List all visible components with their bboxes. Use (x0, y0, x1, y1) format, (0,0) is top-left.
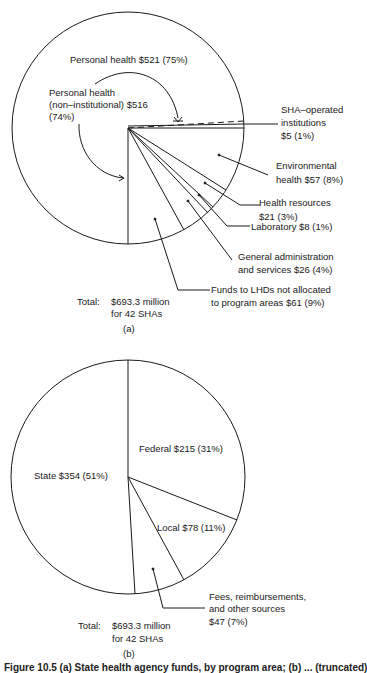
label-sha-1: SHA–operated (281, 104, 343, 116)
total-label-b: Total: (78, 620, 101, 632)
label-lhd-1: Funds to LHDs not allocated (211, 284, 331, 296)
label-hr-1: Health resources (259, 197, 331, 209)
label-sha-2: institutions (281, 117, 326, 129)
total-label-a: Total: (77, 296, 100, 308)
total-value-a: $693.3 million (111, 296, 170, 308)
label-env-2: health $57 (8%) (276, 174, 343, 186)
arrow-nonInst (79, 124, 123, 178)
label-lhd-2: to program areas $61 (9%) (211, 297, 325, 309)
pie-b-edge-federal (128, 477, 237, 520)
pie-b-edge-fees (128, 477, 135, 594)
figure-caption: Figure 10.5 (a) State health agency fund… (4, 662, 367, 673)
label-nonInst-3: (74%) (49, 111, 74, 123)
label-personal-health: Personal health $521 (75%) (70, 54, 188, 66)
label-nonInst-1: Personal health (49, 87, 115, 99)
label-local: Local $78 (11%) (157, 522, 225, 534)
label-env-1: Environmental (276, 160, 337, 172)
label-ga-2: and services $26 (4%) (238, 264, 333, 276)
total-count-b: for 42 SHAs (112, 633, 163, 645)
leader-hr (205, 183, 260, 205)
label-fees-3: $47 (7%) (209, 616, 248, 628)
label-lab: Laboratory $8 (1%) (251, 221, 332, 233)
label-nonInst-2: (non–institutional) $516 (49, 99, 148, 111)
panel-label-a: (a) (123, 323, 135, 335)
leader-lhd (155, 219, 210, 290)
leader-lab (199, 195, 250, 226)
label-fees-2: and other sources (209, 603, 285, 615)
total-count-a: for 42 SHAs (111, 308, 162, 320)
label-federal: Federal $215 (31%) (139, 443, 223, 455)
panel-label-b: (b) (123, 648, 135, 660)
total-value-b: $693.3 million (112, 620, 171, 632)
pie-a-edge-sha-thin (128, 124, 244, 126)
label-ga-1: General administration (238, 251, 334, 263)
leader-env (219, 155, 268, 175)
label-fees-1: Fees, reimbursements, (209, 591, 306, 603)
label-state: State $354 (51%) (34, 470, 108, 482)
leader-fees (153, 569, 205, 608)
leader-env-dot (218, 154, 220, 156)
label-sha-3: $5 (1%) (281, 130, 314, 142)
